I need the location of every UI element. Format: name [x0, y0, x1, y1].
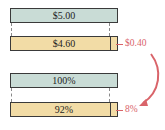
conversion-arrow-path [143, 54, 158, 103]
conversion-arrow [0, 0, 165, 130]
